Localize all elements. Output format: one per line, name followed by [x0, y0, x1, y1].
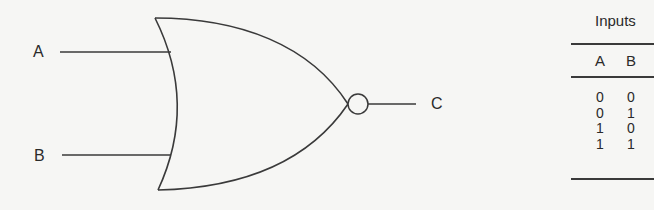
table-header-rule	[571, 76, 654, 78]
gate-bottom-curve	[158, 104, 348, 190]
table-cell: 1	[624, 136, 638, 152]
table-cell: 1	[593, 120, 607, 136]
gate-top-curve	[155, 18, 348, 104]
nor-gate-diagram: A B C Inputs A B 0 0 0 1 1 0 1 1	[0, 0, 654, 210]
input-a-label: A	[33, 44, 44, 60]
inputs-header: Inputs	[571, 12, 654, 29]
inversion-bubble	[348, 94, 368, 114]
column-header-b: B	[624, 52, 638, 69]
table-cell: 0	[593, 89, 607, 105]
table-top-rule	[571, 43, 654, 45]
column-header-a: A	[593, 52, 607, 69]
truth-table: Inputs A B 0 0 0 1 1 0 1 1	[571, 0, 654, 210]
input-b-label: B	[34, 148, 45, 164]
gate-body	[155, 18, 177, 190]
table-cell: 0	[624, 89, 638, 105]
table-cell: 1	[624, 105, 638, 121]
table-cell: 1	[593, 136, 607, 152]
table-cell: 0	[593, 105, 607, 121]
output-c-label: C	[431, 96, 443, 112]
table-cell: 0	[624, 120, 638, 136]
nor-gate-symbol	[0, 0, 654, 210]
table-bottom-rule	[571, 178, 654, 180]
